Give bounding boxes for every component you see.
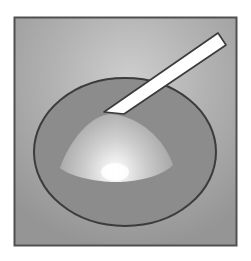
diagram-figure — [0, 0, 251, 261]
light-hotspot — [101, 163, 129, 181]
